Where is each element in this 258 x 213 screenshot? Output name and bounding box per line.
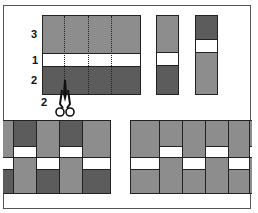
- pattern-cell: [82, 169, 111, 194]
- seam: [228, 169, 249, 170]
- label-row-3: 3: [31, 29, 37, 40]
- seam: [228, 157, 249, 158]
- pattern-cell: [3, 121, 13, 157]
- strip-b-top: [196, 16, 217, 40]
- strip-b-middle: [196, 40, 217, 53]
- seam: [36, 157, 59, 158]
- pattern-cell: [205, 157, 228, 194]
- seam: [131, 157, 159, 158]
- strip-a-bottom: [157, 66, 178, 94]
- seam: [13, 157, 36, 158]
- seam: [249, 146, 252, 147]
- pattern-cell: [13, 121, 36, 146]
- main-row-3: [43, 16, 140, 54]
- seam: [205, 157, 228, 158]
- label-cut-width: 2: [41, 97, 47, 108]
- seam: [249, 157, 252, 158]
- seam: [205, 146, 228, 147]
- seam: [182, 169, 205, 170]
- seam: [59, 146, 82, 147]
- strip-a-top: [157, 16, 178, 53]
- pattern-cell: [205, 146, 228, 157]
- pattern-cell: [228, 121, 249, 157]
- pattern-cell: [131, 121, 159, 157]
- strip-a-middle: [157, 53, 178, 66]
- seam: [159, 146, 182, 147]
- pattern-cell: [131, 157, 159, 169]
- pattern-cell: [82, 157, 111, 169]
- seam: [13, 146, 36, 147]
- pattern-cell: [36, 157, 59, 169]
- strip-b-bottom: [196, 53, 217, 94]
- pattern-cell: [159, 146, 182, 157]
- pattern-cell: [13, 157, 36, 194]
- pattern-cell: [59, 146, 82, 157]
- pattern-cell: [82, 121, 111, 157]
- pattern-cell: [182, 121, 205, 157]
- pattern-cell: [205, 121, 228, 146]
- strip-a: [156, 15, 179, 95]
- scissors-icon: [54, 80, 76, 118]
- pattern-cell: [59, 121, 82, 146]
- label-row-2: 2: [31, 75, 37, 86]
- seam: [59, 157, 82, 158]
- pattern-cell: [182, 157, 205, 169]
- pattern-cell: [131, 169, 159, 194]
- cut-line-2: [88, 16, 89, 94]
- label-row-1: 1: [32, 55, 38, 66]
- seam: [82, 157, 111, 158]
- pattern-cell: [159, 121, 182, 146]
- pattern-cell: [228, 169, 249, 194]
- pattern-cell: [13, 146, 36, 157]
- seam: [3, 157, 13, 158]
- strip-b: [195, 15, 218, 95]
- assembled-pattern-right: [130, 120, 252, 194]
- pattern-cell: [228, 157, 249, 169]
- seam: [36, 169, 59, 170]
- pattern-cell: [59, 157, 82, 194]
- seam: [3, 169, 13, 170]
- pattern-cell: [36, 169, 59, 194]
- seam: [131, 169, 159, 170]
- seam: [159, 157, 182, 158]
- pattern-cell: [3, 169, 13, 194]
- cut-line-3: [111, 16, 112, 94]
- seam: [82, 169, 111, 170]
- pattern-cell: [182, 169, 205, 194]
- assembled-pattern-left: [3, 120, 111, 194]
- pattern-cell: [36, 121, 59, 157]
- pattern-cell: [3, 157, 13, 169]
- seam: [182, 157, 205, 158]
- main-row-1: [43, 54, 140, 67]
- pattern-cell: [159, 157, 182, 194]
